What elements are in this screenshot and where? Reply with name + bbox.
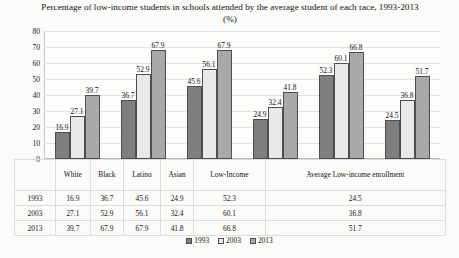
table-cell: 60.1	[194, 206, 265, 221]
table-row: 199316.936.745.624.952.324.5	[15, 191, 446, 206]
bar-group: 24.932.441.8	[242, 31, 308, 159]
bar-value-label: 16.9	[56, 123, 69, 132]
bar: 51.7	[415, 76, 430, 159]
bar-group: 36.752.967.9	[110, 31, 176, 159]
table-column-header: Latino	[123, 160, 160, 191]
bar-value-label: 36.7	[122, 91, 135, 100]
table-cell: 67.9	[90, 221, 123, 236]
y-axis-tick: 70	[16, 43, 40, 52]
table-column-header: Low-Income	[194, 160, 265, 191]
table-cell: 67.9	[123, 221, 160, 236]
bar: 36.7	[121, 100, 136, 159]
y-axis-tick: 60	[16, 59, 40, 68]
bar: 36.8	[400, 100, 415, 159]
table-cell: 16.9	[56, 191, 91, 206]
bar: 67.9	[151, 50, 166, 159]
bar-value-label: 39.7	[86, 86, 99, 95]
table-cell: 27.1	[56, 206, 91, 221]
chart-page: Percentage of low-income students in sch…	[0, 0, 459, 258]
table-corner-cell	[15, 160, 56, 191]
legend-item[interactable]: 2013	[250, 236, 273, 245]
table-cell: 52.3	[194, 191, 265, 206]
bar-group: 45.656.167.9	[176, 31, 242, 159]
bar-value-label: 36.8	[401, 91, 414, 100]
bar-group-bars: 52.360.166.8	[308, 31, 374, 159]
bar-value-label: 41.8	[284, 83, 297, 92]
table-cell: 32.4	[160, 206, 193, 221]
bar: 16.9	[55, 132, 70, 159]
table-cell: 36.8	[265, 206, 445, 221]
bar-group-bars: 16.927.139.7	[44, 31, 110, 159]
table-column-header: Average Low-income enrollment	[265, 160, 445, 191]
legend-swatch-icon	[250, 238, 256, 244]
y-axis-tick: 10	[16, 139, 40, 148]
bar-group: 24.536.851.7	[374, 31, 440, 159]
bar-value-label: 67.9	[218, 41, 231, 50]
legend-swatch-icon	[218, 238, 224, 244]
bar-group: 16.927.139.7	[44, 31, 110, 159]
table-column-header: White	[56, 160, 91, 191]
bar: 32.4	[268, 107, 283, 159]
table-row: 201339.767.967.941.866.851.7	[15, 221, 446, 236]
bar: 24.5	[385, 120, 400, 159]
table-cell: 51.7	[265, 221, 445, 236]
bar: 45.6	[187, 86, 202, 159]
y-axis-tick: 30	[16, 107, 40, 116]
legend-item[interactable]: 2003	[218, 236, 241, 245]
table-cell: 66.8	[194, 221, 265, 236]
bar: 24.9	[253, 119, 268, 159]
y-axis-tick: 50	[16, 75, 40, 84]
legend-item[interactable]: 1993	[186, 236, 209, 245]
bar-value-label: 24.5	[386, 111, 399, 120]
y-axis-tick: 80	[16, 27, 40, 36]
table-cell: 39.7	[56, 221, 91, 236]
bar: 56.1	[202, 69, 217, 159]
bar-value-label: 52.3	[320, 66, 333, 75]
table-row-year: 2013	[15, 221, 56, 236]
table-cell: 52.9	[90, 206, 123, 221]
table-row: 200327.152.956.132.460.136.8	[15, 206, 446, 221]
bar: 39.7	[85, 95, 100, 159]
table-column-header: Black	[90, 160, 123, 191]
bar-value-label: 56.1	[203, 60, 216, 69]
table-column-header: Asian	[160, 160, 193, 191]
legend-swatch-icon	[186, 238, 192, 244]
bar-value-label: 67.9	[152, 41, 165, 50]
table-cell: 45.6	[123, 191, 160, 206]
bar-value-label: 45.6	[188, 77, 201, 86]
bar-value-label: 24.9	[254, 110, 267, 119]
bar: 66.8	[349, 52, 364, 159]
legend-label: 2013	[258, 236, 273, 245]
table-cell: 36.7	[90, 191, 123, 206]
table-cell: 56.1	[123, 206, 160, 221]
bar-groups: 16.927.139.736.752.967.945.656.167.924.9…	[44, 31, 440, 159]
bar: 67.9	[217, 50, 232, 159]
bar-value-label: 66.8	[350, 43, 363, 52]
bar-group-bars: 36.752.967.9	[110, 31, 176, 159]
bar: 41.8	[283, 92, 298, 159]
chart-legend: 199320032013	[0, 236, 459, 245]
data-table: WhiteBlackLatinoAsianLow-IncomeAverage L…	[14, 159, 446, 236]
bar-group-bars: 24.932.441.8	[242, 31, 308, 159]
bar-value-label: 52.9	[137, 65, 150, 74]
bar-value-label: 27.1	[71, 107, 84, 116]
y-axis-tick: 20	[16, 123, 40, 132]
bar: 27.1	[70, 116, 85, 159]
table-body: 199316.936.745.624.952.324.5200327.152.9…	[15, 191, 446, 236]
bar-value-label: 32.4	[269, 98, 282, 107]
table-row-year: 1993	[15, 191, 56, 206]
bar-group-bars: 45.656.167.9	[176, 31, 242, 159]
bar-value-label: 51.7	[416, 67, 429, 76]
bar-group: 52.360.166.8	[308, 31, 374, 159]
table-header-row: WhiteBlackLatinoAsianLow-IncomeAverage L…	[15, 160, 446, 191]
table-head: WhiteBlackLatinoAsianLow-IncomeAverage L…	[15, 160, 446, 191]
bar: 52.9	[136, 74, 151, 159]
legend-label: 1993	[194, 236, 209, 245]
chart-title: Percentage of low-income students in sch…	[34, 1, 426, 25]
bar-group-bars: 24.536.851.7	[374, 31, 440, 159]
table-cell: 41.8	[160, 221, 193, 236]
bar: 52.3	[319, 75, 334, 159]
table-cell: 24.5	[265, 191, 445, 206]
legend-label: 2003	[226, 236, 241, 245]
table-cell: 24.9	[160, 191, 193, 206]
